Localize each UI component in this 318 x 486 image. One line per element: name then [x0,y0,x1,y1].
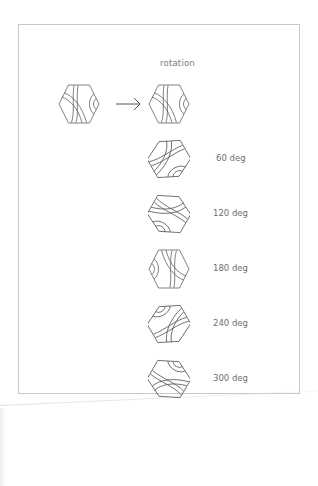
rotation-label-180: 180 deg [213,263,248,273]
page-edge-shadow [0,408,6,486]
rotated-tile-120 [148,194,190,234]
rotated-tile-240 [148,304,190,344]
rotated-tile-300 [148,359,190,399]
rotated-tile-0 [148,84,190,124]
right-arrow-icon [114,96,144,112]
rotation-label-240: 240 deg [213,318,248,328]
rotation-label-120: 120 deg [213,208,248,218]
diagram-title: rotation [160,58,195,68]
rotation-label-60: 60 deg [216,153,246,163]
rotation-label-300: 300 deg [213,373,248,383]
source-tile [58,84,100,124]
rotated-tile-180 [148,249,190,289]
rotated-tile-60 [148,139,190,179]
